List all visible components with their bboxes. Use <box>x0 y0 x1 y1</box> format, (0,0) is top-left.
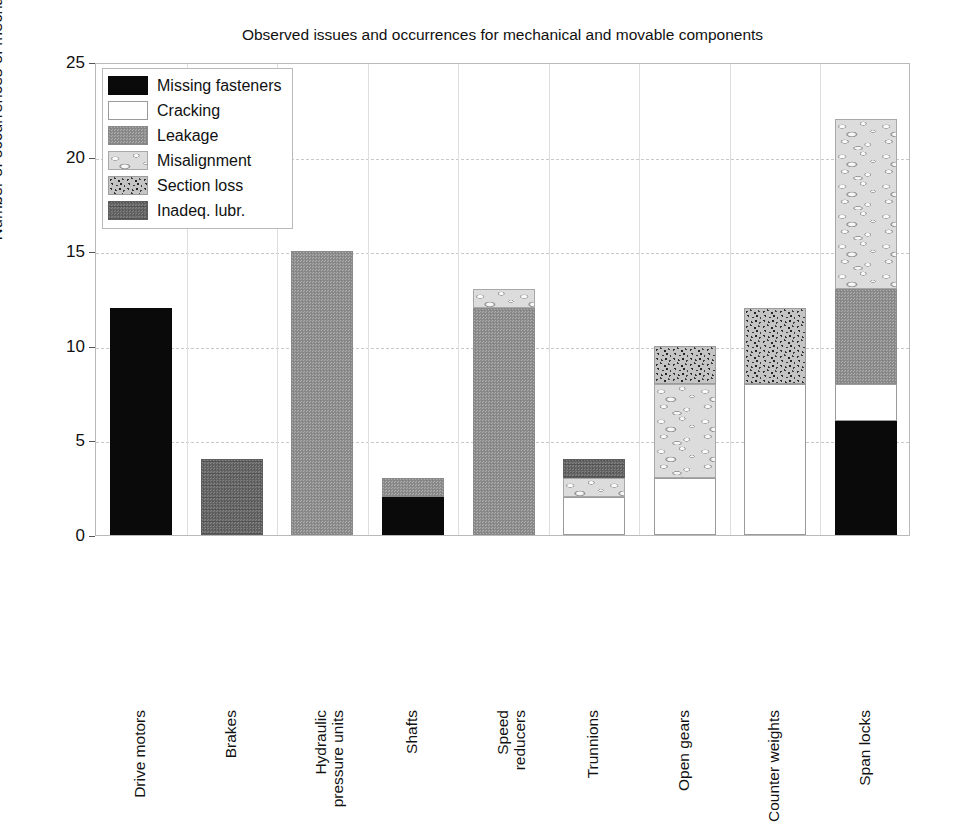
bar-segment-missing-fasteners[interactable] <box>382 497 444 535</box>
legend-label: Cracking <box>157 102 220 120</box>
bar-segment-leakage[interactable] <box>473 308 535 535</box>
bar-segment-cracking[interactable] <box>835 384 897 422</box>
x-tick-label-line: Trunnions <box>584 710 601 778</box>
y-tick-label-25: 25 <box>45 53 85 73</box>
legend-label: Missing fasteners <box>157 77 282 95</box>
bar-group[interactable] <box>563 62 625 535</box>
legend-item-leakage[interactable]: Leakage <box>108 123 282 148</box>
bar-group[interactable] <box>473 62 535 535</box>
gridline-x-3 <box>368 64 369 535</box>
legend-item-cracking[interactable]: Cracking <box>108 98 282 123</box>
x-tick-label-6: Open gears <box>675 710 692 791</box>
legend-item-section-loss[interactable]: Section loss <box>108 173 282 198</box>
x-tick-label-2: Hydraulicpressure units <box>312 710 347 807</box>
x-tick-label-line: pressure units <box>330 710 347 807</box>
x-tick-label-line: Brakes <box>222 710 239 758</box>
x-tick-label-line: Shafts <box>403 710 420 754</box>
x-tick-label-line: Open gears <box>675 710 692 791</box>
x-tick-label-line: Drive motors <box>131 710 148 798</box>
x-tick-label-7: Counter weights <box>765 710 782 822</box>
legend-swatch-cracking <box>108 101 148 120</box>
bar-segment-misalignment[interactable] <box>473 289 535 308</box>
y-tick-label-20: 20 <box>45 148 85 168</box>
y-tick-label-10: 10 <box>45 337 85 357</box>
bar-group[interactable] <box>744 62 806 535</box>
x-tick-label-8: Span locks <box>856 710 873 786</box>
y-tick-label-0: 0 <box>45 526 85 546</box>
x-tick-label-line: Counter weights <box>765 710 782 822</box>
x-tick-label-line: Span locks <box>856 710 873 786</box>
legend-item-misalignment[interactable]: Misalignment <box>108 148 282 173</box>
gridline-x-5 <box>549 64 550 535</box>
y-tick-mark-0 <box>89 536 95 537</box>
bar-segment-misalignment[interactable] <box>654 384 716 479</box>
bar-segment-leakage[interactable] <box>382 478 444 497</box>
legend-label: Section loss <box>157 177 243 195</box>
legend-item-missing-fasteners[interactable]: Missing fasteners <box>108 73 282 98</box>
bar-segment-missing-fasteners[interactable] <box>110 308 172 535</box>
y-tick-label-15: 15 <box>45 242 85 262</box>
x-tick-label-4: Speedreducers <box>494 710 529 770</box>
bar-segment-inadeq-lubr[interactable] <box>201 459 263 535</box>
gridline-x-4 <box>458 64 459 535</box>
bar-segment-inadeq-lubr[interactable] <box>563 459 625 478</box>
bar-segment-section-loss[interactable] <box>744 308 806 384</box>
bar-segment-misalignment[interactable] <box>563 478 625 497</box>
gridline-x-6 <box>639 64 640 535</box>
x-tick-label-line: Hydraulic <box>312 710 329 775</box>
bar-group[interactable] <box>654 62 716 535</box>
gridline-x-7 <box>730 64 731 535</box>
chart-title: Observed issues and occurrences for mech… <box>95 26 910 44</box>
x-tick-label-3: Shafts <box>403 710 420 754</box>
legend-label: Inadeq. lubr. <box>157 202 245 220</box>
x-tick-label-5: Trunnions <box>584 710 601 778</box>
legend-label: Misalignment <box>157 152 251 170</box>
legend-swatch-section-loss <box>108 176 148 195</box>
legend-item-inadeq-lubr[interactable]: Inadeq. lubr. <box>108 198 282 223</box>
gridline-x-8 <box>820 64 821 535</box>
legend-swatch-misalignment <box>108 151 148 170</box>
x-tick-label-1: Brakes <box>222 710 239 758</box>
legend-swatch-leakage <box>108 126 148 145</box>
y-axis-title: Number of occurrences of mechanical prob… <box>0 0 6 300</box>
bar-group[interactable] <box>382 62 444 535</box>
bar-segment-cracking[interactable] <box>563 497 625 535</box>
bar-segment-leakage[interactable] <box>291 251 353 535</box>
x-tick-label-line: reducers <box>511 710 528 770</box>
bar-segment-cracking[interactable] <box>654 478 716 535</box>
bar-group[interactable] <box>835 62 897 535</box>
bar-segment-misalignment[interactable] <box>835 119 897 289</box>
x-tick-label-line: Speed <box>494 710 511 755</box>
bar-segment-cracking[interactable] <box>744 384 806 535</box>
bar-segment-leakage[interactable] <box>835 289 897 384</box>
legend-label: Leakage <box>157 127 218 145</box>
bar-segment-missing-fasteners[interactable] <box>835 421 897 535</box>
bar-segment-section-loss[interactable] <box>654 346 716 384</box>
legend-swatch-inadeq-lubr <box>108 201 148 220</box>
x-tick-label-0: Drive motors <box>131 710 148 798</box>
legend-swatch-missing-fasteners <box>108 76 148 95</box>
chart-legend: Missing fastenersCrackingLeakageMisalign… <box>102 68 293 229</box>
y-tick-label-5: 5 <box>45 431 85 451</box>
bar-group[interactable] <box>291 62 353 535</box>
